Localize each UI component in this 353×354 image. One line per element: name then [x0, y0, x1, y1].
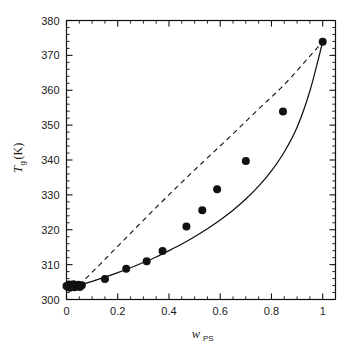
y-tick-label: 330	[41, 189, 59, 201]
data-point-marker	[78, 281, 86, 289]
y-tick-label: 300	[41, 294, 59, 306]
data-point-marker	[159, 247, 167, 255]
svg-text:w: w	[192, 327, 201, 341]
data-point-marker	[182, 223, 190, 231]
y-tick-label: 310	[41, 259, 59, 271]
x-tick-label: 0.8	[264, 305, 279, 317]
data-point-marker	[101, 275, 109, 283]
y-tick-label: 380	[41, 15, 59, 27]
y-axis-title: T g (K)	[11, 143, 27, 173]
data-point-marker	[198, 206, 206, 214]
data-point-marker	[122, 265, 130, 273]
svg-text:PS: PS	[203, 334, 214, 343]
y-tick-label: 320	[41, 224, 59, 236]
x-tick-label: 0.4	[161, 305, 176, 317]
svg-text:(K): (K)	[11, 143, 25, 160]
data-point-marker	[279, 108, 287, 116]
y-tick-label: 350	[41, 119, 59, 131]
x-tick-label: 0	[63, 305, 69, 317]
x-tick-label: 1	[320, 305, 326, 317]
data-point-marker	[242, 157, 250, 165]
data-point-marker	[143, 257, 151, 265]
data-point-marker	[319, 38, 327, 46]
x-tick-label: 0.6	[213, 305, 228, 317]
y-tick-label: 370	[41, 49, 59, 61]
x-tick-label: 0.2	[110, 305, 125, 317]
tg-vs-wps-scatter-chart: 00.20.40.60.81 3003103203303403503603703…	[0, 0, 353, 354]
svg-text:g: g	[18, 161, 27, 165]
y-tick-label: 360	[41, 84, 59, 96]
y-tick-label: 340	[41, 154, 59, 166]
y-axis-tick-labels: 300310320330340350360370380	[41, 15, 59, 306]
figure-container: 00.20.40.60.81 3003103203303403503603703…	[0, 0, 353, 354]
data-point-marker	[213, 185, 221, 193]
